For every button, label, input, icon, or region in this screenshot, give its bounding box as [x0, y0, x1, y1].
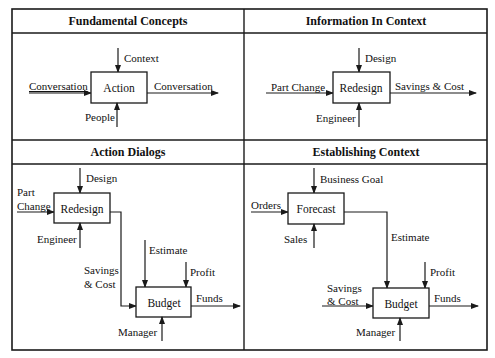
change-label: Change: [17, 200, 51, 212]
funds-label: Funds: [196, 292, 223, 304]
context-label: Context: [124, 52, 159, 64]
redesign-box-label: Redesign: [61, 203, 104, 216]
panel-title-information-in-context: Information In Context: [306, 14, 427, 28]
conversation-output-label: Conversation: [154, 80, 213, 92]
estimate-label: Estimate: [391, 231, 430, 243]
savings-cost-label: Savings & Cost: [395, 80, 464, 92]
panel-title-establishing-context: Establishing Context: [312, 145, 419, 159]
panel-title-fundamental-concepts: Fundamental Concepts: [68, 14, 187, 28]
design-label: Design: [365, 52, 397, 64]
budget-box-label: Budget: [384, 298, 418, 311]
part-change-label: Part Change: [271, 81, 325, 93]
savings-cost-connector: [110, 212, 136, 306]
estimate-connector: [344, 212, 387, 288]
redesign-box-label: Redesign: [340, 82, 383, 95]
profit-label: Profit: [190, 266, 215, 278]
panel-title-action-dialogs: Action Dialogs: [91, 145, 166, 159]
people-label: People: [85, 111, 115, 123]
funds-label: Funds: [434, 292, 461, 304]
profit-label: Profit: [430, 266, 455, 278]
idef0-diagram: Fundamental Concepts Information In Cont…: [0, 0, 495, 358]
part-label: Part: [17, 186, 35, 198]
action-box-label: Action: [103, 82, 135, 94]
engineer-label: Engineer: [37, 233, 77, 245]
panel-action-dialogs: Design Part Change Redesign Engineer Sav…: [17, 168, 240, 341]
panel-fundamental-concepts: Context Conversation Action Conversation…: [29, 48, 218, 127]
savings-label: Savings: [84, 264, 119, 276]
panel-establishing-context: Business Goal Orders Forecast Sales Esti…: [251, 168, 478, 341]
panel-information-in-context: Design Part Change Redesign Savings & Co…: [266, 48, 476, 127]
budget-box-label: Budget: [147, 297, 181, 310]
cost-label: & Cost: [84, 278, 115, 290]
engineer-label: Engineer: [316, 112, 356, 124]
conversation-input-label: Conversation: [29, 80, 88, 92]
manager-label: Manager: [118, 326, 157, 338]
design-label: Design: [86, 172, 118, 184]
manager-label: Manager: [356, 326, 395, 338]
savings-label: Savings: [327, 282, 362, 294]
sales-label: Sales: [284, 233, 307, 245]
business-goal-label: Business Goal: [320, 173, 383, 185]
cost-label: & Cost: [327, 295, 358, 307]
forecast-box-label: Forecast: [297, 203, 337, 215]
orders-label: Orders: [251, 199, 281, 211]
estimate-label: Estimate: [149, 244, 188, 256]
